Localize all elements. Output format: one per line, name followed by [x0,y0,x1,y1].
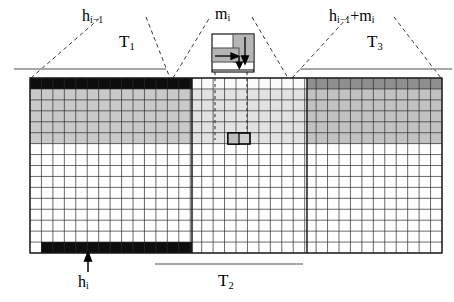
grid-bottomleft-white-cell [30,242,41,253]
label-T1: T1 [119,33,135,52]
h-i-arrow [85,252,92,272]
figure-artwork [0,0,454,302]
grid-lower-white-2 [192,242,442,253]
label-T2: T2 [218,272,234,291]
label-h-i-minus-1-plus-m-i: hi−1+mi [329,8,375,25]
label-m-i: mi [215,6,230,23]
highlighted-cell-inner [228,133,239,144]
left-gray-band [30,89,192,144]
m-i-detail-box [212,34,254,72]
label-h-i-minus-1: hi−1 [82,8,103,25]
middle-top-white-row [192,78,307,89]
label-T3: T3 [367,33,383,52]
left-bottom-black-row [41,242,192,253]
figure-canvas: hi−1 T1 mi hi−1+mi T3 hi T2 [0,0,454,302]
left-top-black-row [30,78,192,89]
label-h-i: hi [78,274,89,291]
